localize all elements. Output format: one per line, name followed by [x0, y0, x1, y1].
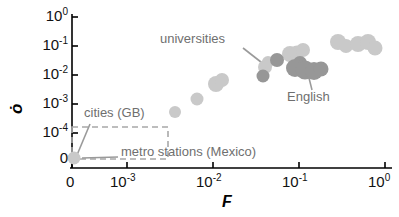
- leader-metro: [82, 157, 118, 158]
- x-tick-label: 0: [66, 174, 74, 189]
- annotation-cities-gb: cities (GB): [84, 106, 145, 119]
- annotation-universities: universities: [160, 32, 225, 45]
- leader-cities-gb: [77, 124, 90, 155]
- annotation-english: English: [287, 90, 330, 103]
- y-tick-label: 10-1: [42, 37, 68, 52]
- x-axis-title: F: [222, 194, 232, 210]
- data-point: [257, 70, 270, 83]
- figure-container: 100 10-1 10-2 10-3 10-4 0 0 10-3 10-2 10…: [0, 0, 399, 217]
- x-tick-label: 10-3: [110, 174, 136, 189]
- x-tick-label: 100: [368, 174, 390, 189]
- data-point: [314, 62, 329, 77]
- data-point: [368, 41, 383, 56]
- data-point: [169, 106, 181, 118]
- data-point: [215, 73, 229, 87]
- data-point: [191, 93, 204, 106]
- y-tick-label: 10-2: [42, 66, 68, 81]
- y-ticks: [72, 17, 78, 158]
- y-axis-title-container: ȯ: [8, 88, 34, 114]
- data-point: [68, 152, 81, 165]
- data-point: [296, 43, 310, 57]
- y-tick-label: 10-4: [42, 124, 68, 139]
- y-tick-label: 10-3: [42, 95, 68, 110]
- x-ticks: [72, 162, 385, 168]
- y-axis-title: ȯ: [8, 104, 25, 114]
- y-tick-label: 0: [60, 150, 68, 165]
- x-tick-label: 10-2: [196, 174, 222, 189]
- data-point: [270, 53, 284, 67]
- annotation-metro-stations: metro stations (Mexico): [121, 145, 256, 158]
- y-tick-label: 100: [46, 8, 68, 23]
- x-tick-label: 10-1: [282, 174, 308, 189]
